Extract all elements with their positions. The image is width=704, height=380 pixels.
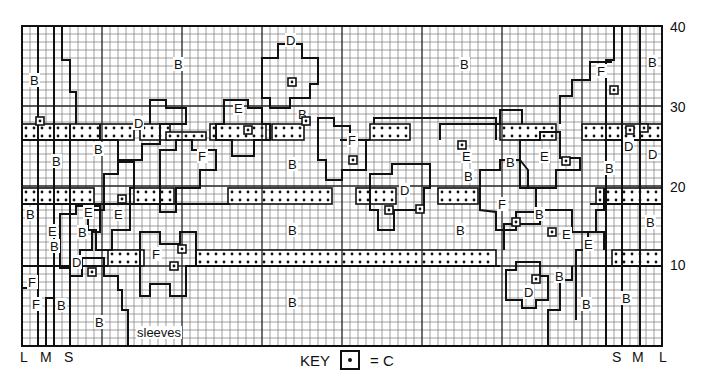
region-label: D xyxy=(648,147,657,162)
size-label-m: M xyxy=(40,350,52,364)
region-label: F xyxy=(32,297,40,312)
region-label: B xyxy=(555,269,564,284)
region-label: E xyxy=(584,237,593,252)
size-label-s-right: S xyxy=(612,350,621,364)
region-label: E xyxy=(84,205,93,220)
region-label: B xyxy=(57,298,66,313)
region-label: B xyxy=(460,57,469,72)
region-label: B xyxy=(95,315,104,330)
region-label: E xyxy=(114,207,123,222)
size-label-l-right: L xyxy=(659,350,667,364)
region-label: B xyxy=(622,291,631,306)
key-label: KEY xyxy=(300,352,330,369)
region-label: B xyxy=(30,73,39,88)
region-label: F xyxy=(348,133,356,148)
region-label: D xyxy=(134,116,143,131)
dot-in-box-icon xyxy=(340,350,360,370)
region-label: E xyxy=(234,101,243,116)
region-label: D xyxy=(624,139,633,154)
region-label: B xyxy=(535,207,544,222)
region-label: B xyxy=(174,57,183,72)
region-label: B xyxy=(288,223,297,238)
sleeves-label: sleeves xyxy=(136,326,182,339)
y-axis-label-20: 20 xyxy=(670,180,686,194)
region-label: B xyxy=(288,295,297,310)
region-label: D xyxy=(524,285,533,300)
y-axis-label-30: 30 xyxy=(670,100,686,114)
region-label: E xyxy=(48,224,57,239)
region-label: B xyxy=(94,142,103,157)
region-label: B xyxy=(26,207,35,222)
region-label: B xyxy=(605,161,614,176)
region-label: E xyxy=(562,227,571,242)
key-equals-c: = C xyxy=(370,352,394,369)
region-label: F xyxy=(28,275,36,290)
size-label-l: L xyxy=(20,350,28,364)
region-label: F xyxy=(597,64,605,79)
region-label: B xyxy=(582,297,591,312)
chart-key: KEY = C xyxy=(300,350,394,370)
region-label: B xyxy=(464,169,473,184)
region-label: B xyxy=(288,157,297,172)
region-label: B xyxy=(52,154,61,169)
region-label: D xyxy=(400,183,409,198)
region-label: B xyxy=(456,223,465,238)
y-axis-label-10: 10 xyxy=(670,258,686,272)
region-label: B xyxy=(646,215,655,230)
knitting-chart: BBDBEDBBFBFEBBBEFBDDBDBEEEBBDBBFBEEBFFFB… xyxy=(0,0,704,380)
region-label: F xyxy=(198,149,206,164)
region-label: D xyxy=(286,33,295,48)
region-label: B xyxy=(50,239,59,254)
y-axis-label-40: 40 xyxy=(670,20,686,34)
size-label-s: S xyxy=(64,350,73,364)
region-label: B xyxy=(78,225,87,240)
size-label-m-right: M xyxy=(632,350,644,364)
region-label: E xyxy=(540,149,549,164)
region-label: E xyxy=(462,149,471,164)
region-label: D xyxy=(72,255,81,270)
region-label: B xyxy=(506,155,515,170)
region-label: F xyxy=(498,197,506,212)
region-label: B xyxy=(648,55,657,70)
region-label: F xyxy=(152,247,160,262)
